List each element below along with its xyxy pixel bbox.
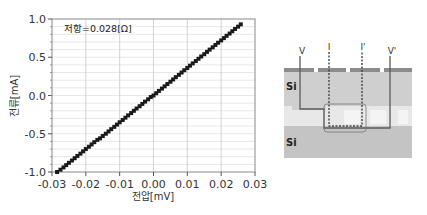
four-point-probe-diagram: V I I' V' Si Si — [280, 30, 427, 180]
x-tick-labels: -0.03-0.02-0.010.000.010.020.03 — [38, 178, 267, 191]
void — [344, 110, 360, 124]
y-tick-label: 0.5 — [29, 51, 47, 64]
void — [370, 110, 386, 124]
x-tick-label: -0.03 — [38, 178, 66, 191]
x-tick-label: 0.00 — [141, 178, 166, 191]
si-bottom-layer — [284, 126, 412, 158]
surface-segment — [350, 68, 380, 72]
data-points — [55, 22, 243, 174]
y-tick-label: 1.0 — [29, 13, 47, 26]
label-i-prime: I' — [360, 42, 365, 52]
surface-segment — [284, 68, 314, 72]
y-tick-label: 0.0 — [29, 90, 47, 103]
label-v-prime: V' — [388, 46, 397, 56]
data-point — [239, 22, 243, 26]
x-axis-label: 전압[mV] — [132, 190, 174, 202]
x-tick-label: -0.01 — [105, 178, 133, 191]
label-v: V — [299, 46, 306, 56]
iv-chart: -0.03-0.02-0.010.000.010.020.03 1.00.50.… — [0, 0, 280, 215]
x-tick-label: 0.03 — [243, 178, 268, 191]
void — [398, 110, 408, 124]
x-tick-label: 0.01 — [175, 178, 200, 191]
si-top-layer — [284, 72, 412, 106]
y-tick-labels: 1.00.50.0-0.5-1.0 — [25, 13, 46, 179]
resistance-annotation: 저항=0.028[Ω] — [64, 23, 132, 34]
surface-segment — [384, 68, 412, 72]
label-si-top: Si — [286, 81, 297, 92]
y-tick-label: -0.5 — [25, 128, 46, 141]
y-axis-label: 전류[mA] — [9, 75, 20, 117]
x-tick-label: 0.02 — [209, 178, 234, 191]
surface-segment — [318, 68, 346, 72]
x-tick-label: -0.02 — [72, 178, 100, 191]
label-si-bottom: Si — [286, 137, 297, 148]
label-i: I — [328, 42, 331, 52]
y-tick-label: -1.0 — [25, 166, 46, 179]
